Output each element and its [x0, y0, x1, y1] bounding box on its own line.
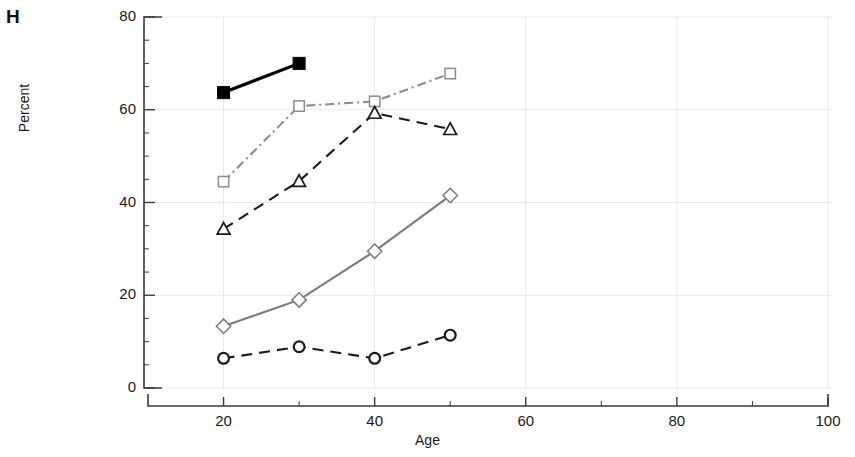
series-line — [224, 196, 451, 327]
x-tick-label: 40 — [345, 412, 405, 429]
series-line — [224, 74, 451, 182]
marker-open-diamond — [443, 188, 457, 202]
series-open-circle-dashed — [218, 330, 455, 364]
marker-open-triangle — [217, 223, 230, 235]
marker-filled-square — [293, 57, 305, 69]
gridlines — [156, 17, 832, 390]
marker-open-triangle — [444, 123, 457, 135]
series-line — [224, 63, 300, 92]
marker-open-circle — [218, 353, 229, 364]
y-tick-label: 80 — [86, 7, 136, 24]
marker-open-diamond — [367, 244, 381, 258]
x-tick-label: 100 — [798, 412, 855, 429]
y-tick-label: 20 — [86, 285, 136, 302]
series-open-square-dashdot — [218, 68, 455, 186]
x-axis-spine — [148, 394, 828, 406]
marker-open-triangle — [368, 107, 381, 119]
series-line — [224, 335, 451, 358]
marker-open-circle — [369, 353, 380, 364]
x-tick-label: 20 — [194, 412, 254, 429]
x-tick-label: 80 — [647, 412, 707, 429]
marker-open-square — [218, 176, 228, 186]
marker-open-diamond — [216, 319, 230, 333]
marker-open-circle — [445, 330, 456, 341]
y-tick-label: 40 — [86, 193, 136, 210]
series-open-diamond-solid — [216, 188, 457, 333]
series-filled-square-solid — [218, 57, 306, 98]
y-tick-label: 0 — [86, 378, 136, 395]
axes — [144, 17, 828, 406]
x-tick-label: 60 — [496, 412, 556, 429]
data-series-layer — [216, 57, 457, 363]
marker-open-circle — [294, 341, 305, 352]
marker-open-square — [445, 68, 455, 78]
series-line — [224, 113, 451, 229]
series-open-triangle-dashed — [217, 107, 456, 235]
marker-filled-square — [218, 87, 230, 99]
chart-figure: H Percent Age 020406080 20406080100 — [0, 0, 855, 457]
marker-open-square — [294, 101, 304, 111]
y-tick-label: 60 — [86, 100, 136, 117]
